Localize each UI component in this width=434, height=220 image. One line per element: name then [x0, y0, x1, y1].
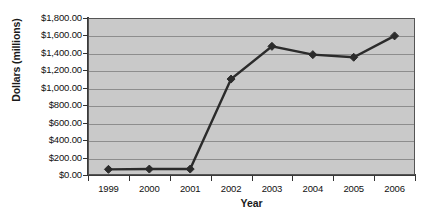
x-axis-tick-label: 1999: [86, 183, 130, 194]
x-axis-tick-label: 2003: [250, 183, 294, 194]
x-axis-tick-label: 2005: [332, 183, 376, 194]
y-axis-tick-mark: [83, 70, 88, 71]
data-point-marker: [104, 165, 112, 173]
x-axis-tick-mark: [129, 176, 130, 181]
x-axis-tick-label: 2001: [168, 183, 212, 194]
y-axis-tick-mark: [83, 88, 88, 89]
y-axis-tick-label-group: $0.00$200.00$400.00$600.00$800.00$1,000.…: [18, 18, 82, 175]
x-axis-tick-mark: [252, 176, 253, 181]
x-axis-tick-mark: [292, 176, 293, 181]
x-axis-tick-mark: [415, 176, 416, 181]
x-axis-tick-mark: [333, 176, 334, 181]
y-axis-tick-mark: [83, 35, 88, 36]
y-axis-tick-mark: [83, 175, 88, 176]
x-axis-tick-mark: [211, 176, 212, 181]
y-axis-tick-mark: [83, 18, 88, 19]
y-axis-tick-mark: [83, 105, 88, 106]
y-axis-tick-mark: [83, 53, 88, 54]
x-axis-tick-label: 2002: [209, 183, 253, 194]
x-axis-tick-mark: [374, 176, 375, 181]
y-axis-tick-mark: [83, 158, 88, 159]
y-axis-tick-label: $1,600.00: [18, 30, 82, 40]
series-markers: [104, 32, 398, 173]
x-axis-tick-mark: [88, 176, 89, 181]
y-axis-tick-label: $1,200.00: [18, 65, 82, 75]
y-axis-tick-label: $600.00: [18, 118, 82, 128]
y-axis-tick-label: $800.00: [18, 100, 82, 110]
data-point-marker: [145, 165, 153, 173]
data-series-layer: [88, 18, 415, 175]
x-axis-tick-label: 2000: [127, 183, 171, 194]
y-axis-tick-label: $0.00: [18, 170, 82, 180]
data-point-marker: [309, 51, 317, 59]
y-axis-tick-mark: [83, 123, 88, 124]
y-axis-tick-label: $200.00: [18, 153, 82, 163]
y-axis-tick-label: $1,000.00: [18, 83, 82, 93]
y-axis-tick-label: $400.00: [18, 135, 82, 145]
x-axis-tick-label: 2004: [291, 183, 335, 194]
x-axis-tick-label: 2006: [373, 183, 417, 194]
line-chart: Dollars (millions) $0.00$200.00$400.00$6…: [0, 0, 434, 220]
y-axis-tick-label: $1,400.00: [18, 48, 82, 58]
x-axis-title: Year: [88, 197, 415, 209]
x-axis-tick-mark: [170, 176, 171, 181]
data-point-marker: [186, 165, 194, 173]
y-axis-tick-mark: [83, 140, 88, 141]
y-axis-tick-label: $1,800.00: [18, 13, 82, 23]
